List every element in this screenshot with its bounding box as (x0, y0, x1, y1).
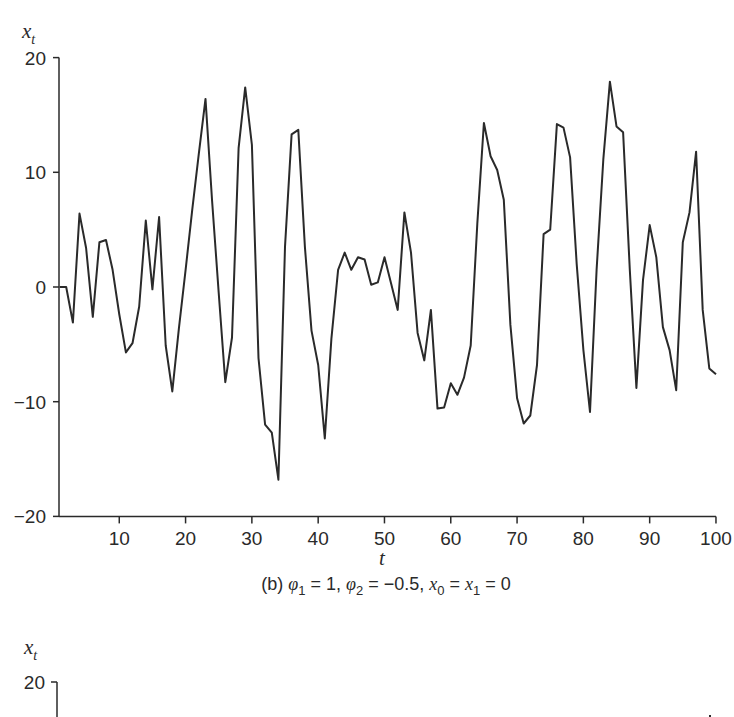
x-tick-label: 40 (308, 528, 329, 549)
y-axis-label-next: xt (23, 635, 38, 663)
panel-caption: (b) φ1 = 1, φ2 = −0.5, x0 = x1 = 0 (261, 574, 511, 598)
y-tick-label: 10 (25, 162, 46, 183)
y-axis-label: xt (21, 19, 36, 47)
y-axis: 20100−10−20 (14, 48, 59, 528)
x-tick-label: 70 (506, 528, 527, 549)
ar2-time-series-figure: xt 20100−10−20 102030405060708090100 t (… (0, 0, 734, 717)
y-tick-label: −20 (14, 506, 46, 527)
x-tick-label: 20 (175, 528, 196, 549)
panel-next-chart: xt 20 (23, 635, 711, 717)
x-axis-label: t (379, 546, 386, 570)
x-tick-label: 30 (241, 528, 262, 549)
x-tick-label: 60 (440, 528, 461, 549)
panel-b-chart: xt 20100−10−20 102030405060708090100 t (… (14, 19, 732, 598)
x-tick-label: 100 (700, 528, 732, 549)
y-tick-label: 0 (35, 277, 46, 298)
x-tick-label: 10 (109, 528, 130, 549)
x-axis: 102030405060708090100 (59, 516, 732, 549)
y-tick-label: 20 (25, 48, 46, 69)
y-tick-label: −10 (14, 392, 46, 413)
y-tick-label-next-20: 20 (24, 672, 45, 693)
x-tick-label: 80 (573, 528, 594, 549)
series-line-xt (60, 82, 716, 480)
x-tick-label: 90 (639, 528, 660, 549)
